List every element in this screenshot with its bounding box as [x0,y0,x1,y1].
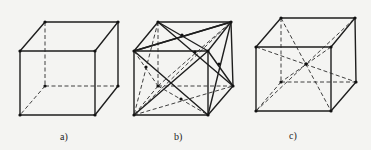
cube-diagrams [0,0,371,150]
crystal-lattice-figure: a) b) c) [0,0,371,150]
cube-b-face-centered [132,20,234,116]
panel-label-c: c) [289,130,297,141]
panel-label-b: b) [174,131,182,142]
cube-c-body-centered [254,16,357,112]
cube-a-simple-cubic [18,20,119,116]
panel-label-a: a) [60,131,68,142]
